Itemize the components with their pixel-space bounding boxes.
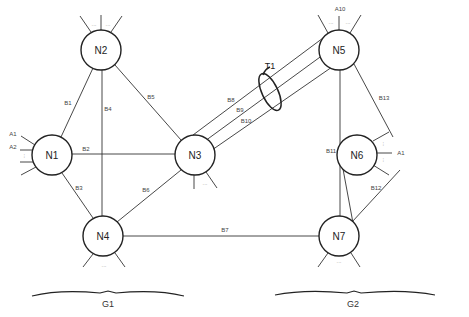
edge-b5 [115, 65, 181, 140]
group-g2-label: G2 [347, 299, 359, 309]
edge-b6 [117, 170, 181, 222]
node-n1[interactable]: N1 [32, 135, 72, 175]
node-n3[interactable]: N3 [175, 135, 215, 175]
stub-n7-right [351, 253, 360, 267]
edge-n6-n7 [352, 170, 400, 222]
ellipsis-n6-a: ... [382, 141, 388, 146]
stub-n4-right [115, 253, 125, 267]
edge-b3 [62, 173, 93, 218]
edge-label-b3: B3 [75, 185, 83, 191]
node-n2[interactable]: N2 [81, 30, 121, 70]
node-n4-label: N4 [97, 231, 110, 242]
edge-b12 [343, 169, 353, 223]
stub-n2-left [80, 16, 91, 32]
stub-n5-right [350, 15, 361, 33]
group-g2: G2 [275, 291, 435, 309]
node-n5-label: N5 [333, 45, 346, 56]
ellipsis-n2-a: ... [91, 21, 96, 27]
ellipsis-n7: ... [336, 258, 341, 264]
ellipsis-n4: ... [101, 262, 106, 268]
access-label-n6-a1: A1 [397, 150, 405, 156]
edge-label-b4: B4 [104, 106, 112, 112]
node-n3-label: N3 [189, 150, 202, 161]
group-g1-label: G1 [102, 299, 114, 309]
stub-n7-left [318, 253, 328, 267]
group-g1: G1 [32, 291, 184, 309]
brace-g1-icon [32, 291, 184, 296]
trunk-ring-icon [254, 70, 285, 113]
stub-n1-a1 [21, 136, 35, 145]
stub-n2-right [111, 16, 122, 32]
edge-label-b6: B6 [142, 187, 150, 193]
access-label-n5-a10: A10 [335, 6, 346, 12]
edge-label-b9: B9 [236, 107, 244, 113]
stub-n6-top [373, 132, 389, 141]
access-label-n1-a1: A1 [9, 131, 17, 137]
stub-n4-left [83, 254, 93, 267]
edge-label-b12: B12 [371, 185, 382, 191]
ellipsis-n2-b: ... [105, 21, 110, 27]
brace-g2-icon [275, 291, 435, 295]
node-n5[interactable]: N5 [319, 30, 359, 70]
node-n7[interactable]: N7 [319, 216, 359, 256]
edge-label-b11: B11 [326, 148, 337, 154]
node-n6[interactable]: N6 [337, 135, 377, 175]
access-label-n1-a2: A2 [9, 144, 17, 150]
ellipsis-n5-b: ... [345, 19, 350, 25]
edge-label-b5: B5 [147, 94, 155, 100]
node-n4[interactable]: N4 [83, 216, 123, 256]
edge-label-b8: B8 [227, 97, 235, 103]
network-diagram: B1 B2 B3 B4 B5 B6 B7 B8 B9 B10 B11 B12 B… [0, 0, 469, 317]
ellipsis-n5-a: ... [328, 19, 333, 25]
ellipsis-n6-b: ... [382, 157, 388, 162]
node-n2-label: N2 [95, 45, 108, 56]
stub-n6-bottom [373, 165, 389, 175]
edge-label-b13: B13 [379, 95, 390, 101]
edge-label-b1: B1 [64, 100, 72, 106]
edge-label-b2: B2 [82, 146, 90, 152]
node-n1-label: N1 [46, 150, 59, 161]
stub-n5-left [318, 15, 328, 33]
node-n6-label: N6 [351, 150, 364, 161]
stub-n1-d [21, 167, 36, 175]
stub-n3-right [206, 172, 217, 188]
ellipsis-n3: ... [202, 180, 207, 186]
edge-label-b7: B7 [221, 227, 229, 233]
ellipsis-n1: ... [23, 153, 29, 158]
edge-label-b10: B10 [241, 118, 252, 124]
node-n7-label: N7 [333, 231, 346, 242]
trunk-label: T1 [265, 61, 276, 71]
